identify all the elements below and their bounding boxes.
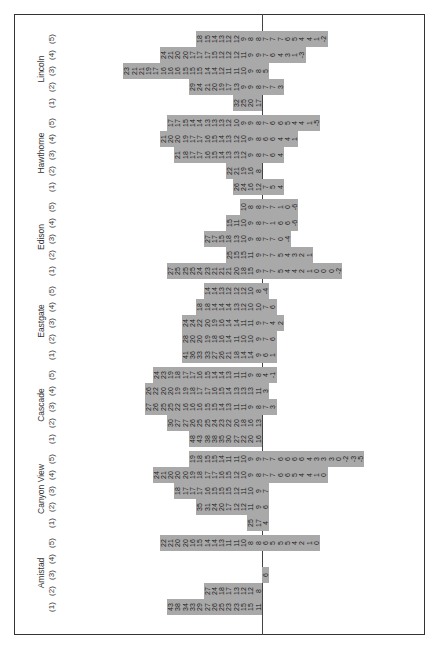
value-cell: 16 bbox=[167, 63, 174, 79]
value-cell: 36 bbox=[189, 347, 196, 363]
value-cell: 10 bbox=[240, 535, 247, 551]
value-cell: 14 bbox=[204, 283, 211, 299]
value-cell: 25 bbox=[174, 263, 181, 279]
value-cell: 15 bbox=[211, 399, 218, 415]
value-cell: 11 bbox=[233, 331, 240, 347]
value-cell: 8 bbox=[255, 467, 262, 483]
value-cell: 12 bbox=[218, 63, 225, 79]
column-upper-values: 2517 bbox=[247, 515, 262, 531]
value-cell: 15 bbox=[218, 483, 225, 499]
value-cell: 24 bbox=[153, 367, 160, 383]
column-label: (1) bbox=[47, 599, 56, 615]
value-cell: 8 bbox=[255, 199, 262, 215]
value-cell: 8 bbox=[255, 79, 262, 95]
value-cell: 21 bbox=[167, 535, 174, 551]
value-cell: 7 bbox=[262, 331, 269, 347]
value-cell: 9 bbox=[247, 115, 254, 131]
value-cell: 7 bbox=[262, 247, 269, 263]
value-cell: 11 bbox=[225, 451, 232, 467]
column-lower-values: -4 bbox=[262, 283, 269, 299]
value-cell: 33 bbox=[196, 347, 203, 363]
value-cell: 23 bbox=[225, 599, 232, 615]
value-cell: 13 bbox=[218, 535, 225, 551]
value-cell: 21 bbox=[211, 263, 218, 279]
value-cell: 13 bbox=[225, 131, 232, 147]
value-cell: 6 bbox=[277, 115, 284, 131]
value-cell: 19 bbox=[182, 131, 189, 147]
value-cell: 15 bbox=[240, 599, 247, 615]
column-label: (2) bbox=[47, 331, 56, 347]
value-cell: 15 bbox=[211, 451, 218, 467]
column-upper-values: 2423191817171615141413111198 bbox=[153, 367, 262, 383]
value-cell: 4 bbox=[306, 451, 313, 467]
value-cell: 11 bbox=[247, 247, 254, 263]
value-cell: 3 bbox=[277, 79, 284, 95]
column-lower-values: 773 bbox=[262, 79, 284, 95]
column-label: (2) bbox=[47, 415, 56, 431]
column-lower-values: 7166-6 bbox=[262, 215, 298, 231]
value-cell: 11 bbox=[255, 599, 262, 615]
school-name: Eastgate bbox=[36, 279, 46, 363]
column-label: (3) bbox=[47, 147, 56, 163]
value-cell: 1 bbox=[291, 47, 298, 63]
value-cell: 21 bbox=[160, 467, 167, 483]
column-upper-values: 181514131212988 bbox=[196, 31, 262, 47]
value-cell: 8 bbox=[255, 283, 262, 299]
column-upper-values: 2725252524232121212018159 bbox=[167, 263, 262, 279]
value-cell: 13 bbox=[225, 367, 232, 383]
value-cell: 34 bbox=[182, 599, 189, 615]
column-upper-values: 272625252216161615151413111198 bbox=[145, 399, 262, 415]
value-cell: 33 bbox=[189, 599, 196, 615]
value-cell: 18 bbox=[233, 347, 240, 363]
value-cell: 11 bbox=[240, 483, 247, 499]
value-cell: 7 bbox=[269, 451, 276, 467]
value-cell: 8 bbox=[255, 63, 262, 79]
value-cell: 6 bbox=[298, 451, 305, 467]
value-cell: 11 bbox=[233, 63, 240, 79]
value-cell: 11 bbox=[233, 367, 240, 383]
value-cell: 24 bbox=[182, 315, 189, 331]
value-cell: 11 bbox=[233, 535, 240, 551]
value-cell: 3 bbox=[269, 399, 276, 415]
column-upper-values: 32252017 bbox=[233, 95, 262, 111]
value-cell: 17 bbox=[255, 515, 262, 531]
column-label: (4) bbox=[47, 383, 56, 399]
value-cell: 17 bbox=[225, 583, 232, 599]
column-upper-values: 22212020161514141311111088 bbox=[160, 535, 262, 551]
value-cell: 20 bbox=[174, 535, 181, 551]
value-cell: 2 bbox=[298, 535, 305, 551]
value-cell: 8 bbox=[255, 215, 262, 231]
value-cell: 4 bbox=[277, 47, 284, 63]
value-cell: 16 bbox=[204, 483, 211, 499]
column-lower-values: 3 bbox=[262, 383, 269, 399]
value-cell: 6 bbox=[269, 47, 276, 63]
value-cell: 15 bbox=[189, 63, 196, 79]
value-cell: 30 bbox=[167, 415, 174, 431]
value-cell: 4 bbox=[284, 247, 291, 263]
column-lower-values: 754 bbox=[262, 179, 284, 195]
value-cell: 15 bbox=[211, 47, 218, 63]
column-lower-values: 4-1 bbox=[262, 367, 277, 383]
value-cell: 9 bbox=[247, 63, 254, 79]
value-cell: 0 bbox=[328, 263, 335, 279]
value-cell: -6 bbox=[291, 215, 298, 231]
value-cell: 10 bbox=[247, 283, 254, 299]
value-cell: 14 bbox=[218, 299, 225, 315]
value-cell: 16 bbox=[204, 131, 211, 147]
value-cell: 8 bbox=[247, 31, 254, 47]
value-cell: 5 bbox=[291, 31, 298, 47]
value-cell: 38 bbox=[204, 431, 211, 447]
value-cell: 12 bbox=[233, 47, 240, 63]
value-cell: 18 bbox=[182, 147, 189, 163]
column-label: (1) bbox=[47, 263, 56, 279]
column-label: (4) bbox=[47, 215, 56, 231]
value-cell: 10 bbox=[247, 331, 254, 347]
value-cell: 35 bbox=[196, 499, 203, 515]
value-cell: 24 bbox=[211, 499, 218, 515]
value-cell: 11 bbox=[240, 367, 247, 383]
value-cell: 4 bbox=[277, 179, 284, 195]
value-cell: 4 bbox=[262, 515, 269, 531]
value-cell: 5 bbox=[277, 263, 284, 279]
value-cell: 16 bbox=[247, 415, 254, 431]
value-cell: 5 bbox=[284, 535, 291, 551]
